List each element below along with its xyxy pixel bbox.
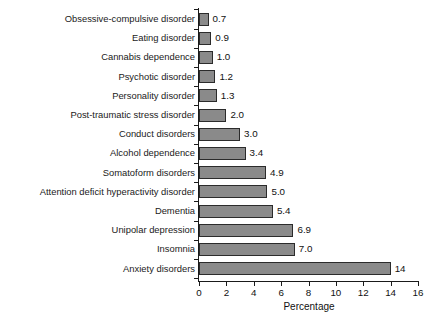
bar-value-label: 1.3	[221, 91, 235, 101]
x-axis-tick-label: 8	[297, 288, 321, 298]
plot-area: 0.70.91.01.21.32.03.03.44.95.05.46.97.01…	[0, 0, 434, 282]
bar-chart: Obsessive-compulsive disorderEating diso…	[0, 0, 434, 322]
y-axis-tick	[194, 201, 198, 202]
x-axis-tick	[336, 282, 337, 286]
bar	[199, 51, 213, 64]
y-axis-tick	[194, 163, 198, 164]
y-axis-tick	[194, 278, 198, 279]
x-axis-tick-label: 2	[214, 288, 238, 298]
bar	[199, 147, 246, 160]
y-axis-tick	[194, 29, 198, 30]
bar	[199, 70, 215, 83]
x-axis-title: Percentage	[199, 302, 419, 312]
bar	[199, 166, 266, 179]
x-axis-tick	[363, 282, 364, 286]
bar	[199, 128, 240, 141]
x-axis-tick	[281, 282, 282, 286]
y-axis-tick	[194, 48, 198, 49]
bar-value-label: 3.0	[244, 129, 258, 139]
y-axis-tick	[194, 105, 198, 106]
bar	[199, 109, 226, 122]
bar	[199, 185, 267, 198]
x-axis-tick-label: 12	[351, 288, 375, 298]
bar	[199, 262, 391, 275]
bar-value-label: 5.4	[277, 206, 291, 216]
x-axis-tick	[309, 282, 310, 286]
bar	[199, 32, 211, 45]
x-axis-tick-label: 4	[242, 288, 266, 298]
x-axis-tick	[391, 282, 392, 286]
bar-value-label: 6.9	[297, 225, 311, 235]
y-axis-tick	[194, 125, 198, 126]
x-axis-tick	[199, 282, 200, 286]
y-axis-tick	[194, 67, 198, 68]
y-axis-line	[198, 8, 199, 282]
x-axis-tick	[226, 282, 227, 286]
y-axis-tick	[194, 9, 198, 10]
bar-value-label: 7.0	[299, 244, 313, 254]
bar	[199, 13, 209, 26]
y-axis-tick	[194, 240, 198, 241]
bar-value-label: 2.0	[230, 110, 244, 120]
bar	[199, 243, 295, 256]
x-axis-tick-label: 16	[406, 288, 430, 298]
y-axis-tick	[194, 221, 198, 222]
bar-value-label: 5.0	[271, 187, 285, 197]
bar-value-label: 4.9	[270, 168, 284, 178]
bar-value-label: 1.0	[217, 52, 231, 62]
bar-value-label: 14	[395, 264, 406, 274]
y-axis-tick	[194, 182, 198, 183]
bar-value-label: 0.7	[213, 14, 227, 24]
x-axis-tick	[418, 282, 419, 286]
x-axis-tick-label: 6	[269, 288, 293, 298]
y-axis-tick	[194, 86, 198, 87]
x-axis-tick-label: 14	[379, 288, 403, 298]
x-axis-tick-label: 0	[187, 288, 211, 298]
bar-value-label: 3.4	[250, 148, 264, 158]
bar	[199, 89, 217, 102]
bar	[199, 224, 293, 237]
bar	[199, 205, 273, 218]
bar-value-label: 1.2	[219, 72, 233, 82]
bar-value-label: 0.9	[215, 33, 229, 43]
y-axis-tick	[194, 144, 198, 145]
x-axis-tick-label: 10	[324, 288, 348, 298]
y-axis-tick	[194, 259, 198, 260]
x-axis-tick	[254, 282, 255, 286]
